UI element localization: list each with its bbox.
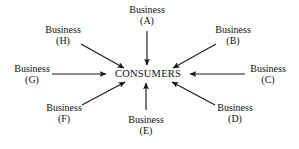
node-business-b: Business (B) [203,24,263,46]
node-business-c: Business (C) [238,63,298,85]
arrow-from-business-b [173,44,216,68]
node-label-name: Business [2,63,62,74]
node-label-name: Business [34,102,94,113]
node-label-tag: (G) [2,74,62,85]
node-label-name: Business [205,102,265,113]
arrow-from-business-h [81,44,124,68]
node-label-tag: (B) [203,35,263,46]
node-business-a: Business (A) [117,4,177,26]
node-label-name: Business [203,24,263,35]
node-business-g: Business (G) [2,63,62,85]
node-label-tag: (E) [116,125,176,136]
node-label-tag: (H) [33,35,93,46]
hub-node-consumers: CONSUMERS [108,68,188,79]
node-label-tag: (A) [117,15,177,26]
node-business-d: Business (D) [205,102,265,124]
node-business-e: Business (E) [116,114,176,136]
node-label-name: Business [238,63,298,74]
node-label-name: Business [116,114,176,125]
node-label-tag: (C) [238,74,298,85]
hub-label: CONSUMERS [115,68,181,79]
node-label-name: Business [33,24,93,35]
node-label-tag: (D) [205,113,265,124]
node-business-f: Business (F) [34,102,94,124]
node-business-h: Business (H) [33,24,93,46]
business-to-consumers-diagram: CONSUMERS Business (A) Business (B) Busi… [0,0,299,149]
node-label-name: Business [117,4,177,15]
node-label-tag: (F) [34,113,94,124]
